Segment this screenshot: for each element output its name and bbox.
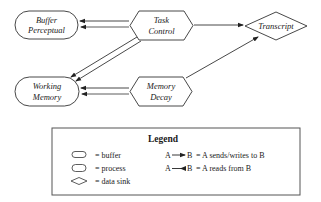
node-buffer-perceptual[interactable]: Buffer Perceptual bbox=[15, 11, 78, 39]
legend-arrow-a: A bbox=[165, 151, 171, 160]
legend-reads-label: = A reads from B bbox=[196, 164, 251, 173]
legend-arrow-b: B bbox=[187, 151, 192, 160]
node-working-memory[interactable]: Working Memory bbox=[15, 77, 79, 106]
node-label: Control bbox=[148, 26, 175, 36]
edge-memory-decay-transcript bbox=[186, 37, 258, 78]
node-label: Decay bbox=[149, 92, 172, 102]
legend-title: Legend bbox=[148, 134, 179, 144]
node-label: Perceptual bbox=[27, 25, 66, 35]
edge-memory-decay-working-memory bbox=[81, 88, 129, 94]
legend-arrow-a: A bbox=[165, 164, 171, 173]
rounded-rect-icon bbox=[72, 152, 86, 158]
node-transcript[interactable]: Transcript bbox=[245, 12, 307, 40]
node-label: Memory bbox=[146, 81, 176, 91]
edge-task-control-working-memory bbox=[71, 37, 141, 81]
hexagon-icon bbox=[72, 165, 86, 172]
node-label: Task bbox=[154, 15, 170, 25]
legend-process-label: = process bbox=[95, 164, 126, 173]
legend-buffer-label: = buffer bbox=[95, 151, 121, 160]
node-label: Transcript bbox=[258, 21, 294, 31]
node-label: Buffer bbox=[36, 15, 58, 25]
node-label: Working bbox=[33, 81, 62, 91]
edge-task-control-buffer-perceptual bbox=[80, 21, 129, 27]
legend-sends-label: = A sends/writes to B bbox=[196, 151, 265, 160]
node-task-control[interactable]: Task Control bbox=[130, 11, 193, 40]
legend: Legend = buffer = process = data sink A … bbox=[52, 128, 300, 195]
legend-data-sink-label: = data sink bbox=[95, 177, 130, 186]
node-memory-decay[interactable]: Memory Decay bbox=[130, 77, 192, 106]
architecture-diagram: Buffer Perceptual Working Memory Task Co… bbox=[0, 0, 321, 202]
node-label: Memory bbox=[32, 92, 62, 102]
legend-arrow-b: B bbox=[187, 164, 192, 173]
